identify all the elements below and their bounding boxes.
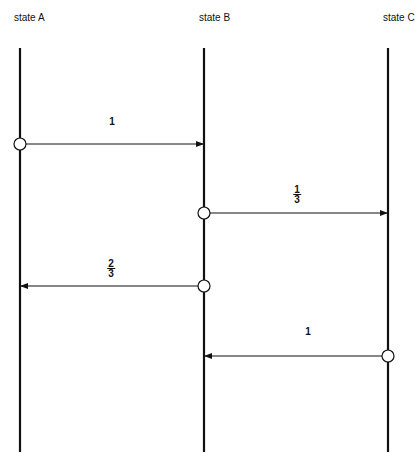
diagram-canvas (0, 0, 417, 462)
fraction-denominator: 3 (108, 269, 114, 278)
label-value: 1 (109, 116, 115, 127)
transition-label-c-b: 1 (305, 326, 311, 337)
transition-origin-b2 (198, 280, 210, 292)
label-value: 1 (305, 326, 311, 337)
fraction-denominator: 3 (294, 195, 300, 204)
transition-origin-a (14, 138, 26, 150)
fraction: 1 3 (293, 185, 301, 204)
transition-label-b-a: 2 3 (107, 258, 115, 278)
transition-label-a-b: 1 (109, 116, 115, 127)
transition-origin-c (382, 350, 394, 362)
transition-origin-b1 (198, 207, 210, 219)
transition-label-b-c: 1 3 (293, 184, 301, 204)
fraction: 2 3 (107, 259, 115, 278)
